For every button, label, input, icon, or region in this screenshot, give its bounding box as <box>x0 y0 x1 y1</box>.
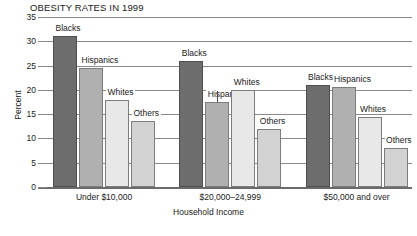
y-tick-label-25: 25 <box>27 61 36 70</box>
y-tick-label-0: 0 <box>31 183 36 192</box>
series-label-others-group-1: Others <box>258 116 287 127</box>
series-label-others-group-0: Others <box>132 108 161 119</box>
series-label-whites-group-1: Whites <box>232 77 261 88</box>
y-tick-mark-20 <box>38 90 47 91</box>
y-axis-title: Percent <box>13 75 23 135</box>
x-axis-title: Household Income <box>0 207 417 217</box>
y-tick-label-20: 20 <box>27 86 36 95</box>
plot-area: 05101520253035BlacksHispanicsWhitesOther… <box>47 17 412 187</box>
y-tick-label-10: 10 <box>27 134 36 143</box>
bar-hispanics-group-0 <box>79 68 103 187</box>
series-label-whites-group-2: Whites <box>359 104 388 115</box>
series-label-blacks-group-2: Blacks <box>307 72 335 83</box>
bar-others-group-1 <box>257 129 281 187</box>
y-tick-mark-35 <box>38 17 47 18</box>
y-tick-mark-10 <box>38 138 47 139</box>
bar-blacks-group-0 <box>53 36 77 187</box>
series-label-others-group-2: Others <box>385 135 414 146</box>
bar-whites-group-0 <box>105 100 129 187</box>
y-tick-mark-15 <box>38 114 47 115</box>
bar-hispanics-group-1 <box>205 102 229 187</box>
y-tick-mark-25 <box>38 66 47 67</box>
x-axis-line <box>38 188 412 189</box>
y-tick-mark-30 <box>38 41 47 42</box>
series-label-whites-group-0: Whites <box>106 87 135 98</box>
y-tick-label-35: 35 <box>27 13 36 22</box>
y-tick-label-5: 5 <box>31 158 36 167</box>
bar-others-group-2 <box>384 148 408 187</box>
gridline-25 <box>47 66 412 67</box>
y-tick-label-15: 15 <box>27 110 36 119</box>
series-label-blacks-group-0: Blacks <box>54 23 82 34</box>
series-label-blacks-group-1: Blacks <box>180 48 208 59</box>
bar-whites-group-1 <box>231 90 255 187</box>
bar-blacks-group-2 <box>306 85 330 187</box>
x-tick-label-0: Under $10,000 <box>44 192 164 202</box>
series-label-hispanics-group-2: Hispanics <box>333 74 373 85</box>
bar-whites-group-2 <box>358 117 382 187</box>
gridline-30 <box>47 41 412 42</box>
y-tick-label-30: 30 <box>27 37 36 46</box>
gridline-35 <box>47 17 412 18</box>
y-tick-mark-5 <box>38 163 47 164</box>
leader-line-hispanics-group-1 <box>217 91 218 102</box>
chart-title: OBESITY RATES IN 1999 <box>30 2 144 13</box>
x-tick-label-2: $50,000 and over <box>297 192 417 202</box>
bar-blacks-group-1 <box>179 61 203 187</box>
bar-others-group-0 <box>131 121 155 187</box>
obesity-rates-bar-chart: OBESITY RATES IN 1999 Percent 0510152025… <box>0 0 417 236</box>
series-label-hispanics-group-0: Hispanics <box>80 55 120 66</box>
bar-hispanics-group-2 <box>332 87 356 187</box>
x-tick-label-1: $20,000–24,999 <box>170 192 290 202</box>
